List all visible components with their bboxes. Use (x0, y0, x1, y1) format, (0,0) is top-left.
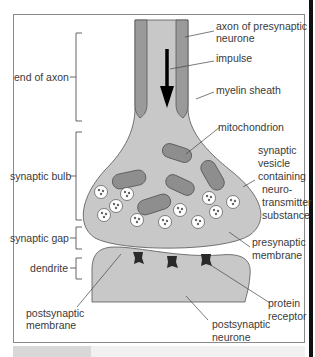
label-presynaptic-membrane-1: presynaptic (252, 236, 306, 249)
label-vesicle-5: transmitter (262, 196, 312, 209)
label-synaptic-bulb: synaptic bulb (10, 170, 68, 183)
label-postsynaptic-neurone-2: neurone (212, 331, 251, 344)
label-postsynaptic-membrane-1: postsynaptic (26, 307, 84, 320)
label-impulse: impulse (216, 52, 252, 65)
label-vesicle-3: containing (258, 170, 306, 183)
label-postsynaptic-membrane-2: membrane (26, 319, 76, 332)
label-dendrite: dendrite (10, 262, 68, 275)
label-vesicle-6: substance (262, 209, 310, 222)
bracket-lines (70, 33, 82, 279)
label-myelin-sheath: myelin sheath (216, 84, 281, 97)
label-axon-1: axon of presynaptic (216, 20, 307, 33)
label-protein-receptor-2: receptor (268, 310, 307, 323)
label-vesicle-1: synaptic (258, 144, 297, 157)
label-axon-2: neurone (216, 32, 255, 45)
myelin-sheath-left (135, 20, 147, 118)
postsynaptic-neurone (92, 247, 250, 302)
label-presynaptic-membrane-2: membrane (252, 249, 302, 262)
label-vesicle-4: neuro- (262, 183, 292, 196)
label-mitochondrion: mitochondrion (218, 121, 284, 134)
myelin-sheath-right (176, 20, 188, 118)
label-protein-receptor-1: protein (268, 297, 300, 310)
label-synaptic-gap: synaptic gap (10, 232, 68, 245)
label-vesicle-2: vesicle (258, 157, 290, 170)
label-postsynaptic-neurone-1: postsynaptic (212, 318, 270, 331)
label-end-of-axon: end of axon (14, 71, 68, 84)
